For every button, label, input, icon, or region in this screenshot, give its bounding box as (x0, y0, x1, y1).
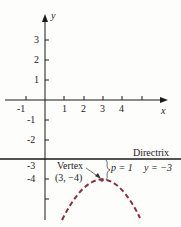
x-tick-label: 2 (81, 104, 86, 114)
vertex-arrow-head-icon (95, 173, 101, 179)
y-tick-label: 1 (34, 75, 39, 85)
x-tick-label: -1 (17, 104, 25, 114)
y-tick-label: -1 (27, 115, 35, 125)
y-tick-label: 3 (34, 35, 39, 45)
vertex-coords: (3, −4) (55, 173, 82, 183)
x-tick-label: 4 (119, 104, 124, 114)
y-axis-label: y (51, 11, 55, 21)
x-tick-label: 3 (100, 104, 105, 114)
directrix-label: Directrix (133, 148, 169, 158)
vertex-label: Vertex (57, 161, 83, 171)
figure: y x -1 1 2 3 4 3 2 1 -1 -2 -3 -4 Directr… (0, 0, 181, 227)
y-ticks (45, 40, 49, 199)
x-ticks (26, 96, 142, 100)
directrix-equation: y = −3 (144, 163, 172, 173)
y-axis-arrow-icon (42, 14, 48, 22)
p-annotation: p = 1 (111, 163, 133, 173)
p-brace (106, 160, 110, 180)
parabola-curve (62, 179, 140, 220)
x-axis-label: x (161, 106, 165, 116)
x-tick-label: 1 (62, 104, 67, 114)
y-tick-label: 2 (34, 55, 39, 65)
vertex-point (100, 178, 104, 182)
y-tick-label: -2 (27, 135, 35, 145)
y-tick-label: -3 (27, 161, 35, 171)
y-tick-label: -4 (27, 174, 35, 184)
x-axis-arrow-icon (160, 97, 168, 103)
